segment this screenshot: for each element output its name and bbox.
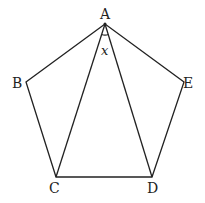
diagonal-ad [105,24,152,177]
angle-label-x: x [101,43,109,58]
angle-arc-x [102,35,109,36]
vertex-a-dot [104,23,107,26]
pentagon-diagram: A B E C D x [0,0,205,203]
diagonal-ac [56,24,105,177]
label-a: A [99,6,111,22]
label-d: D [147,180,158,196]
label-c: C [49,180,60,196]
label-e: E [183,75,193,91]
label-b: B [12,75,22,91]
